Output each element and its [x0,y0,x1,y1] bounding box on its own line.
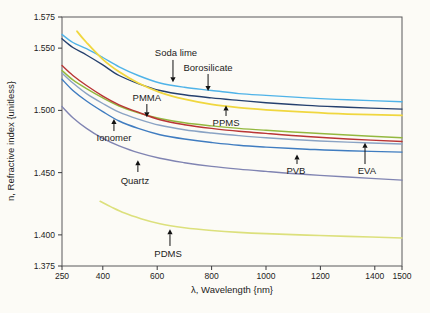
refractive-index-chart: 25040060080010001200140015001.3751.4001.… [0,0,430,313]
annotation-arrowhead-soda-lime [170,77,175,82]
x-tick-label: 250 [55,271,69,281]
y-tick-label: 1.550 [34,43,56,53]
x-axis-title: λ, Wavelength {nm} [191,284,273,295]
annotation-label-soda-lime: Soda lime [155,47,197,58]
x-tick-label: 1000 [257,271,276,281]
y-tick-label: 1.575 [34,12,56,22]
annotation-label-pmma: PMMA [133,92,162,103]
x-tick-label: 1500 [393,271,412,281]
x-tick-label: 1200 [311,271,330,281]
annotation-label-pvb: PVB [286,165,305,176]
y-tick-label: 1.500 [34,105,56,115]
figure-page: 25040060080010001200140015001.3751.4001.… [0,0,430,313]
annotation-label-eva: EVA [358,165,377,176]
annotation-arrowhead-quartz [135,160,140,165]
y-tick-label: 1.375 [34,261,56,271]
annotation-label-quartz: Quartz [121,175,150,186]
x-tick-label: 800 [205,271,219,281]
annotation-arrowhead-eva [362,143,367,148]
series-borosilicate [62,39,402,109]
x-tick-label: 400 [96,271,110,281]
annotation-arrowhead-pvb [294,155,299,160]
x-tick-label: 1400 [365,271,384,281]
annotation-label-ppms: PPMS [213,117,240,128]
series-ppms [77,31,402,115]
y-tick-label: 1.450 [34,168,56,178]
x-tick-label: 600 [150,271,164,281]
annotation-label-pdms: PDMS [154,248,181,259]
y-axis-title: n, Refractive index {unitless} [5,81,16,201]
annotation-label-ionomer: Ionomer [97,132,132,143]
plot-area: 25040060080010001200140015001.3751.4001.… [34,12,412,281]
annotation-arrowhead-pdms [167,229,172,234]
series-pdms [100,201,402,238]
annotation-label-borosilicate: Borosilicate [184,62,233,73]
y-tick-label: 1.400 [34,230,56,240]
